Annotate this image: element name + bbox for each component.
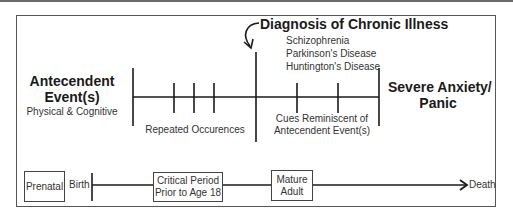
prenatal-box: Prenatal [24,171,65,202]
severe-anxiety-line2: Panic [388,95,488,111]
antecedent-title-line1: Antecendent [22,73,122,89]
mature-adult-box: Mature Adult [271,170,313,201]
repeated-occurrences-label: Repeated Occurences [140,124,250,136]
antecedent-title-line2: Event(s) [22,89,122,105]
antecedent-subtitle: Physical & Cognitive [22,106,122,118]
critical-period-line2: Prior to Age 18 [155,187,221,199]
severe-anxiety-title: Severe Anxiety/ Panic [388,79,488,111]
cues-label-line2: Antecendent Event(s) [268,125,376,137]
diagnosis-example-2: Parkinson's Disease [286,48,376,60]
severe-anxiety-line1: Severe Anxiety/ [388,79,488,95]
mature-adult-line1: Mature [276,174,307,186]
diagnosis-title: Diagnosis of Chronic Illness [260,16,448,32]
cues-label-line1: Cues Reminiscent of [268,113,376,125]
critical-period-box: Critical Period Prior to Age 18 [153,172,223,202]
death-label: Death [469,179,496,191]
diagnosis-example-1: Schizophrenia [286,35,349,47]
mature-adult-line2: Adult [276,186,307,198]
critical-period-line1: Critical Period [155,175,221,187]
cues-label: Cues Reminiscent of Antecendent Event(s) [268,113,376,136]
diagnosis-example-3: Huntington's Disease [286,61,380,73]
birth-label: Birth [69,179,90,191]
antecedent-event-title: Antecendent Event(s) [22,73,122,105]
